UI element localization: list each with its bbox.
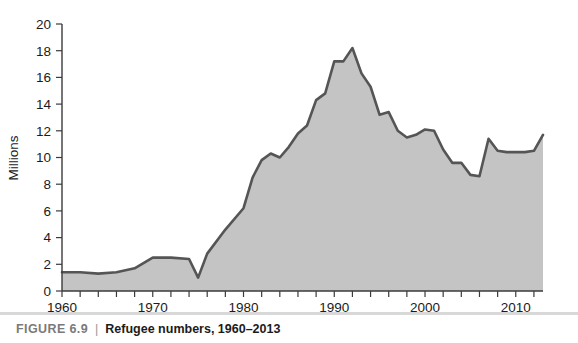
- figure-container: 02468101214161820 1960197019801990200020…: [0, 0, 578, 343]
- y-tick-label: 20: [36, 17, 51, 32]
- y-tick-label: 8: [43, 177, 51, 192]
- figure-caption: FIGURE 6.9 | Refugee numbers, 1960–2013: [16, 322, 280, 336]
- x-tick-label: 1960: [47, 300, 77, 312]
- y-axis-ticks: 02468101214161820: [36, 17, 62, 299]
- y-tick-label: 18: [36, 44, 51, 59]
- x-tick-label: 1990: [319, 300, 349, 312]
- y-tick-label: 14: [36, 97, 52, 112]
- chart-plot-area: 02468101214161820 1960197019801990200020…: [0, 0, 578, 312]
- caption-divider: |: [95, 322, 98, 336]
- x-tick-label: 2010: [501, 300, 531, 312]
- y-tick-label: 2: [43, 257, 51, 272]
- x-tick-label: 2000: [410, 300, 440, 312]
- x-axis-ticks: 196019701980199020002010: [47, 291, 534, 312]
- y-tick-label: 4: [43, 230, 51, 245]
- y-tick-label: 16: [36, 70, 51, 85]
- figure-title-text: Refugee numbers, 1960–2013: [105, 322, 280, 336]
- x-tick-label: 1970: [138, 300, 168, 312]
- figure-number-label: FIGURE 6.9: [16, 322, 88, 336]
- area-fill: [62, 48, 543, 291]
- y-tick-label: 10: [36, 150, 51, 165]
- x-tick-label: 1980: [228, 300, 258, 312]
- y-tick-label: 12: [36, 124, 51, 139]
- data-series-refugees: [62, 48, 543, 291]
- y-tick-label: 0: [43, 284, 51, 299]
- y-tick-label: 6: [43, 204, 51, 219]
- refugee-numbers-area-chart: 02468101214161820 1960197019801990200020…: [0, 0, 578, 312]
- y-axis-title: Millions: [6, 135, 21, 180]
- figure-caption-bar: FIGURE 6.9 | Refugee numbers, 1960–2013: [0, 312, 578, 343]
